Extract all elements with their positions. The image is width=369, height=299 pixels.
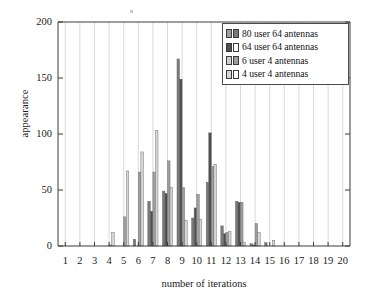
bar	[112, 233, 115, 246]
bar	[180, 79, 183, 246]
chart-legend: 80 user 64 antennas 64 user 64 antennas …	[222, 23, 349, 85]
legend-item: 6 user 4 antennas	[226, 54, 344, 68]
y-axis-title: appearance	[19, 74, 30, 154]
scan-artifact	[130, 10, 133, 13]
y-tick-label: 0	[22, 241, 52, 251]
bar	[221, 226, 224, 246]
legend-label: 6 user 4 antennas	[242, 56, 308, 66]
bar	[243, 243, 246, 246]
legend-swatch-icon	[226, 43, 239, 52]
bar	[228, 231, 231, 246]
bar	[124, 217, 127, 246]
legend-item: 4 user 4 antennas	[226, 68, 344, 82]
bar	[211, 166, 214, 246]
x-tick-label: 20	[332, 255, 354, 266]
bar	[238, 202, 241, 246]
bar	[155, 131, 158, 246]
legend-swatch-icon	[226, 70, 239, 79]
bar	[197, 194, 200, 246]
legend-swatch-icon	[226, 56, 239, 65]
legend-item: 80 user 64 antennas	[226, 27, 344, 41]
x-axis-title: number of iterations	[58, 278, 350, 289]
bar	[182, 188, 185, 246]
bar	[170, 188, 173, 246]
bar	[185, 220, 188, 246]
bar	[133, 239, 136, 246]
legend-item: 64 user 64 antennas	[226, 41, 344, 55]
bar	[272, 240, 275, 246]
bar	[209, 133, 212, 246]
legend-label: 64 user 64 antennas	[242, 42, 318, 52]
bar	[177, 59, 180, 246]
legend-swatch-icon	[226, 29, 239, 38]
bar	[126, 171, 129, 246]
bar	[153, 172, 156, 246]
bar	[192, 218, 195, 246]
legend-label: 4 user 4 antennas	[242, 69, 308, 79]
bar	[241, 202, 244, 246]
y-tick-label: 200	[22, 17, 52, 27]
bar	[165, 193, 168, 246]
bar	[150, 211, 153, 246]
y-tick-label: 50	[22, 185, 52, 195]
bar	[138, 172, 141, 246]
bar	[258, 233, 261, 246]
bar	[148, 201, 151, 246]
bar	[199, 219, 202, 246]
chart-figure: 200 150 100 50 0 12345678910111213141516…	[0, 0, 369, 299]
bar	[194, 208, 197, 246]
bar	[235, 201, 238, 246]
bar	[265, 243, 268, 246]
bar	[168, 161, 171, 246]
legend-label: 80 user 64 antennas	[242, 29, 318, 39]
bar	[214, 164, 217, 246]
bar	[141, 152, 144, 246]
bar	[206, 182, 209, 246]
bar	[162, 191, 165, 246]
